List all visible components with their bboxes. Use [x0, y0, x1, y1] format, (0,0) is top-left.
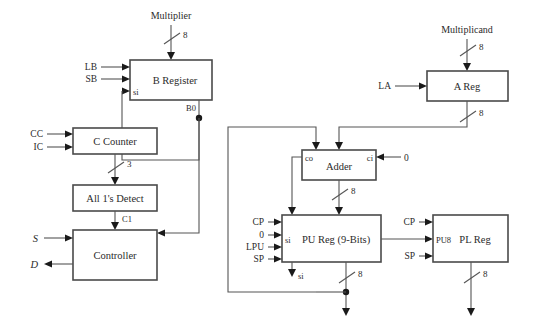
b-register-si-arrow-icon [122, 87, 130, 94]
multiplicand-bus-slash-icon [460, 45, 476, 56]
signal-la-label: LA [378, 81, 391, 91]
c-counter-label: C Counter [93, 136, 137, 147]
signal-pu-sp-label: SP [253, 254, 264, 264]
multiplier-input-label: Multiplier [151, 10, 192, 21]
signal-cc-arrow-icon [65, 130, 73, 137]
diagram-canvas: Multiplier 8 B Register LB SB si B0 C Co… [0, 0, 538, 328]
controller-d-output-label: D [29, 259, 38, 270]
c1-label: C1 [122, 214, 132, 224]
counter-out-bus-width: 3 [127, 159, 132, 169]
multiplicand-bus-width: 8 [479, 42, 484, 52]
pl-si-arrow-icon [425, 235, 433, 242]
controller-d-arrow-icon [44, 260, 52, 267]
c1-arrow-icon [111, 222, 119, 230]
adder-ci-label: ci [367, 153, 374, 163]
signal-lpu-label: LPU [246, 242, 264, 252]
counter-out-arrow-icon [111, 177, 119, 185]
adder-label: Adder [326, 161, 353, 172]
signal-pl-cp-label: CP [403, 217, 415, 227]
signal-ic-label: IC [34, 142, 44, 152]
b0-to-controller-wire [161, 118, 199, 233]
signal-lb-label: LB [85, 62, 97, 72]
signal-lpu-arrow-icon [274, 243, 282, 250]
pl-reg-si-label: PU8 [436, 235, 451, 245]
controller-s-arrow-icon [65, 234, 73, 241]
signal-lb-arrow-icon [122, 63, 130, 70]
pu8-arrow-icon [288, 269, 296, 277]
multiplicand-arrow-icon [463, 63, 471, 71]
controller-s-input-label: S [33, 233, 39, 244]
pu-feedback-arrow-icon [312, 142, 320, 150]
signal-pl-sp-label: SP [404, 251, 415, 261]
signal-pu-zero-arrow-icon [274, 231, 282, 238]
signal-pu-cp-label: CP [252, 217, 264, 227]
areg-adder-arrow-icon [335, 142, 343, 150]
ci-value-label: 0 [404, 153, 409, 163]
areg-out-slash-icon [460, 111, 476, 122]
controller-label: Controller [93, 250, 137, 261]
signal-pl-sp-arrow-icon [425, 252, 433, 259]
multiplier-arrow-icon [167, 52, 175, 60]
adder-sum-arrow-icon [335, 207, 343, 215]
pu-out-arrow-icon [342, 308, 350, 316]
signal-sb-label: SB [85, 74, 97, 84]
counter-bus-slash-icon [108, 162, 124, 173]
a-reg-label: A Reg [454, 81, 481, 92]
pu-out-bus-width: 8 [358, 269, 363, 279]
signal-ic-arrow-icon [65, 143, 73, 150]
pu-reg-si-label: si [285, 235, 291, 245]
b-register-si-label: si [133, 87, 139, 97]
multiplicand-input-label: Multiplicand [441, 24, 493, 35]
signal-pu-cp-arrow-icon [274, 218, 282, 225]
ci-arrow-icon [376, 153, 384, 160]
signal-pu-sp-arrow-icon [274, 255, 282, 262]
pu-out-slash-icon [339, 272, 355, 283]
adder-co-wire [292, 157, 302, 211]
pl-out-arrow-icon [467, 308, 475, 316]
b0-label: B0 [186, 103, 196, 113]
pl-out-bus-width: 8 [483, 269, 488, 279]
signal-pl-cp-arrow-icon [425, 218, 433, 225]
adder-out-bus-width: 8 [351, 186, 356, 196]
all-ones-detect-label: All 1's Detect [86, 193, 143, 204]
b-register-label: B Register [153, 75, 198, 86]
block-diagram: Multiplier 8 B Register LB SB si B0 C Co… [0, 0, 538, 328]
signal-cc-label: CC [30, 129, 43, 139]
signal-pu-zero-label: 0 [259, 230, 264, 240]
areg-out-to-adder-wire [339, 101, 467, 146]
adder-out-slash-icon [332, 189, 348, 200]
multiplier-bus-width: 8 [183, 30, 188, 40]
pl-out-slash-icon [464, 272, 480, 283]
areg-out-bus-width: 8 [479, 108, 484, 118]
adder-co-label: co [305, 153, 313, 163]
adder-co-arrow-icon [288, 207, 296, 215]
pu8-label: si [298, 271, 304, 281]
signal-la-arrow-icon [419, 82, 427, 89]
signal-sb-arrow-icon [122, 75, 130, 82]
multiplier-bus-slash-icon [164, 33, 180, 44]
pl-reg-label: PL Reg [459, 234, 491, 245]
pu-reg-label: PU Reg (9-Bits) [302, 234, 371, 246]
b0-controller-arrow-icon [157, 229, 165, 236]
